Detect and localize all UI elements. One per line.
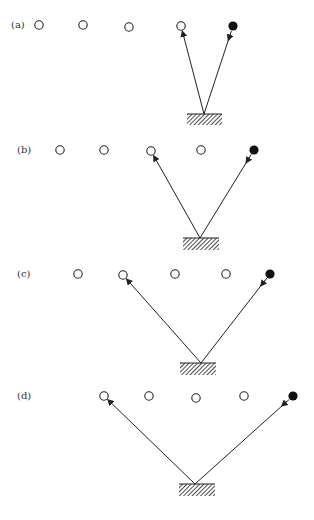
open-circle xyxy=(100,146,108,154)
panel-label: (c) xyxy=(17,268,31,279)
open-circle xyxy=(147,147,155,155)
outgoing-ray xyxy=(126,279,201,363)
open-circle xyxy=(56,146,64,154)
incoming-arrowhead xyxy=(282,401,287,406)
mirror-block xyxy=(180,363,216,375)
incoming-ray xyxy=(204,31,231,114)
filled-circle xyxy=(249,145,258,154)
incoming-arrowhead xyxy=(261,280,265,286)
open-circle xyxy=(197,146,205,154)
incoming-arrowhead xyxy=(228,34,230,41)
panel-label: (a) xyxy=(11,19,25,30)
open-circle xyxy=(119,271,127,279)
open-circle xyxy=(145,392,153,400)
incoming-arrowhead xyxy=(246,157,250,163)
panel-c: (c) xyxy=(17,268,275,375)
outgoing-ray xyxy=(108,400,195,484)
incoming-ray xyxy=(200,154,251,238)
mirror-block xyxy=(179,484,215,496)
outgoing-ray xyxy=(182,31,204,114)
filled-circle xyxy=(228,21,237,30)
open-circle xyxy=(222,270,230,278)
panel-b: (b) xyxy=(17,144,259,250)
open-circle xyxy=(35,21,43,29)
open-circle xyxy=(74,270,82,278)
panel-a: (a) xyxy=(11,19,238,125)
panel-label: (b) xyxy=(17,144,31,155)
incoming-ray xyxy=(201,278,267,363)
mirror-block xyxy=(183,238,219,250)
mirror-reflection-diagram: (a)(b)(c)(d) xyxy=(0,0,314,520)
open-circle xyxy=(100,392,108,400)
panel-label: (d) xyxy=(17,390,31,401)
open-circle xyxy=(171,270,179,278)
open-circle xyxy=(125,23,133,31)
open-circle xyxy=(240,392,248,400)
panel-d: (d) xyxy=(17,390,298,496)
mirror-block xyxy=(187,114,222,125)
filled-circle xyxy=(265,269,274,278)
incoming-ray xyxy=(195,399,289,484)
open-circle xyxy=(177,22,185,30)
filled-circle xyxy=(288,391,297,400)
outgoing-ray xyxy=(154,156,200,238)
open-circle xyxy=(79,21,87,29)
open-circle xyxy=(192,394,200,402)
